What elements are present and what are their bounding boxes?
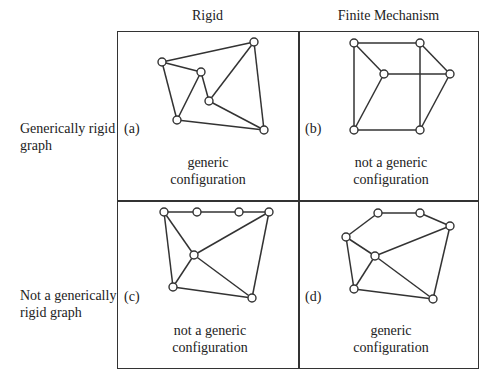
graph-vertex	[260, 126, 268, 134]
graph-vertex	[416, 126, 424, 134]
graph-edge	[162, 62, 177, 120]
graph-vertex	[250, 38, 258, 46]
panel-b-graph	[350, 39, 454, 134]
graph-edge	[354, 74, 384, 130]
graph-vertex	[173, 116, 181, 124]
graph-edge	[162, 62, 201, 72]
graph-vertex	[350, 39, 358, 47]
graph-vertex	[197, 68, 205, 76]
graph-vertex	[350, 285, 358, 293]
graph-vertex	[429, 295, 437, 303]
graph-edge	[177, 72, 201, 120]
graph-edge	[254, 42, 264, 130]
graph-vertex	[342, 233, 350, 241]
graph-edge	[346, 213, 378, 237]
graph-drawings	[0, 0, 500, 386]
graph-vertex	[235, 208, 243, 216]
graph-edge	[252, 212, 269, 298]
graph-vertex	[446, 70, 454, 78]
graph-vertex	[160, 208, 168, 216]
graph-vertex	[350, 126, 358, 134]
graph-vertex	[380, 70, 388, 78]
graph-edge	[173, 255, 194, 287]
graph-vertex	[446, 222, 454, 230]
graph-vertex	[248, 294, 256, 302]
graph-vertex	[374, 209, 382, 217]
panel-d-graph	[342, 209, 454, 303]
graph-edge	[346, 237, 375, 256]
graph-vertex	[169, 283, 177, 291]
graph-edge	[209, 101, 264, 130]
panel-c-graph	[160, 208, 273, 302]
graph-vertex	[416, 39, 424, 47]
graph-edge	[420, 43, 450, 74]
graph-vertex	[193, 208, 201, 216]
graph-vertex	[265, 208, 273, 216]
graph-edge	[177, 120, 264, 130]
graph-edge	[375, 226, 450, 256]
graph-edge	[194, 212, 269, 255]
graph-vertex	[416, 209, 424, 217]
graph-edge	[354, 256, 375, 289]
graph-edge	[346, 237, 354, 289]
graph-edge	[354, 43, 384, 74]
graph-vertex	[190, 251, 198, 259]
graph-edge	[420, 74, 450, 130]
graph-edge	[433, 226, 450, 299]
graph-vertex	[158, 58, 166, 66]
graph-edge	[420, 213, 450, 226]
panel-a-graph	[158, 38, 268, 134]
graph-vertex	[205, 97, 213, 105]
graph-vertex	[371, 252, 379, 260]
